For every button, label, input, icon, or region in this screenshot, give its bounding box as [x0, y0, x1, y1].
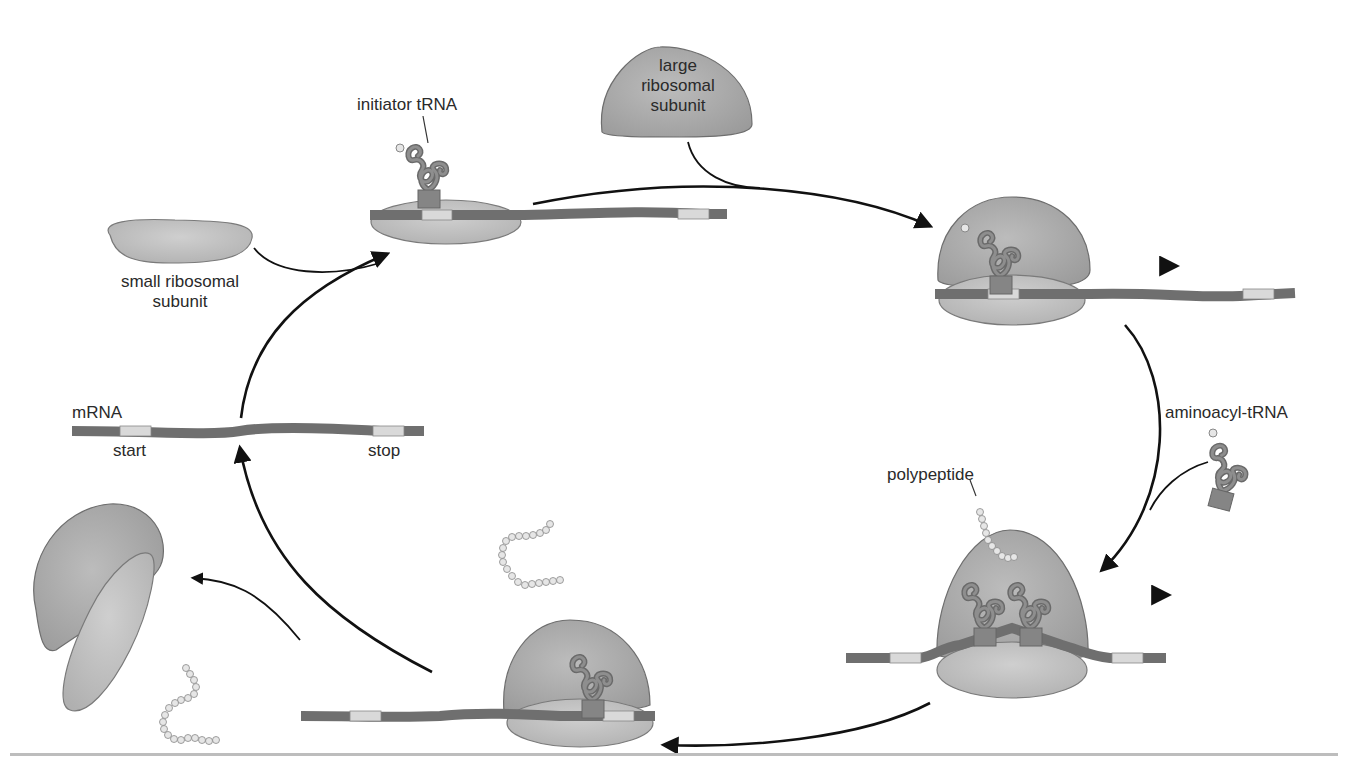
aminoacyl-trna-molecule [1199, 444, 1251, 513]
label-initiator-trna: initiator tRNA [357, 95, 457, 115]
assembled-ribosome [935, 197, 1295, 325]
arrow-termination-to-mrna [240, 448, 432, 672]
label-stop-codon: stop [368, 441, 400, 461]
label-small-ribosomal-subunit: small ribosomal subunit [100, 272, 260, 312]
released-polypeptide [160, 665, 220, 745]
termination-ribosome [301, 521, 655, 748]
arrow-small-subunit-join [254, 248, 380, 272]
label-aminoacyl-trna: aminoacyl-tRNA [1165, 403, 1288, 423]
released-components [34, 504, 220, 745]
arrow-aminoacyl-trna-join [1150, 462, 1208, 510]
arrow-initiation-to-assembled [533, 187, 930, 226]
label-polypeptide: polypeptide [887, 465, 974, 485]
free-mrna [72, 426, 424, 436]
bottom-divider [10, 753, 1338, 756]
arrow-release [193, 578, 300, 640]
arrow-mrna-to-initiation [241, 254, 387, 418]
label-large-line1: large [628, 56, 728, 76]
label-large-ribosomal-subunit: large ribosomal subunit [628, 56, 728, 116]
stop-codon [373, 426, 404, 436]
label-small-line2: subunit [100, 292, 260, 312]
label-small-line1: small ribosomal [100, 272, 260, 292]
polypeptide-chain [499, 521, 564, 589]
arrow-assembled-to-elongation [1102, 325, 1160, 570]
arrow-large-subunit-join [688, 142, 760, 188]
start-codon [120, 426, 151, 436]
label-large-line2: ribosomal [628, 76, 728, 96]
small-ribosomal-subunit-shape [108, 220, 252, 263]
label-start-codon: start [113, 441, 146, 461]
label-mrna: mRNA [72, 403, 122, 423]
arrow-elongation-to-termination [664, 703, 930, 746]
label-large-line3: subunit [628, 96, 728, 116]
elongation-ribosome [846, 480, 1168, 698]
